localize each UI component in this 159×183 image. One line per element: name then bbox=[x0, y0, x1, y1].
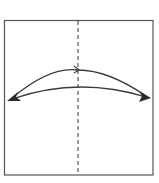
paper-square bbox=[5, 21, 154, 176]
origami-diagram bbox=[0, 0, 159, 183]
